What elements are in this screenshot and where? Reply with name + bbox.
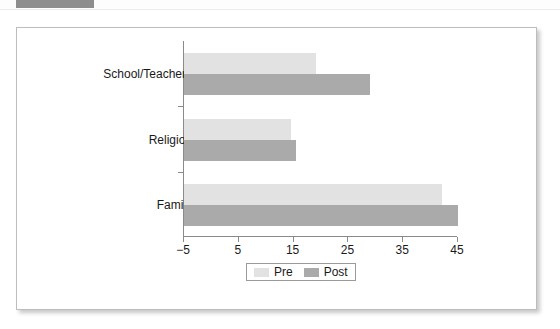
bar-pre bbox=[184, 53, 316, 74]
bar-pre bbox=[184, 119, 291, 140]
legend-label-pre: Pre bbox=[274, 265, 293, 279]
y-tick-mark bbox=[178, 172, 183, 173]
x-tick-mark bbox=[238, 237, 239, 242]
category-label: Religion bbox=[32, 133, 192, 147]
category-label: Family bbox=[32, 198, 192, 212]
header-block bbox=[16, 0, 94, 8]
header-divider bbox=[0, 9, 560, 10]
x-axis-line bbox=[183, 236, 457, 237]
bar-post bbox=[184, 140, 296, 161]
x-tick-label: −5 bbox=[163, 243, 203, 257]
x-tick-mark bbox=[347, 237, 348, 242]
bar-post bbox=[184, 205, 458, 226]
legend-label-post: Post bbox=[324, 265, 348, 279]
x-tick-mark bbox=[402, 237, 403, 242]
plot-area: −5515253545 School/TeachersReligionFamil… bbox=[17, 28, 536, 309]
x-tick-mark bbox=[293, 237, 294, 242]
x-tick-mark bbox=[183, 237, 184, 242]
x-tick-label: 45 bbox=[437, 243, 477, 257]
bar-post bbox=[184, 74, 370, 95]
x-tick-mark bbox=[457, 237, 458, 242]
category-label: School/Teachers bbox=[32, 67, 192, 81]
x-tick-label: 25 bbox=[327, 243, 367, 257]
chart-legend: Pre Post bbox=[246, 263, 356, 281]
page-header-strip bbox=[0, 0, 560, 11]
x-tick-label: 5 bbox=[218, 243, 258, 257]
figure-panel: −5515253545 School/TeachersReligionFamil… bbox=[16, 27, 537, 310]
y-tick-mark bbox=[178, 106, 183, 107]
bar-pre bbox=[184, 184, 442, 205]
legend-swatch-post bbox=[304, 268, 319, 277]
x-tick-label: 15 bbox=[273, 243, 313, 257]
x-tick-label: 35 bbox=[382, 243, 422, 257]
legend-swatch-pre bbox=[254, 268, 269, 277]
